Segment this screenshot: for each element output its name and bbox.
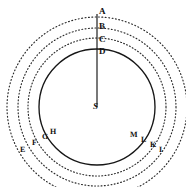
comet-orbit-figure: A B C D S E F G H M L K I [0,0,186,187]
ring-label-h: H [50,128,56,136]
center-label-s: S [93,102,98,111]
axis-label-c: C [99,35,106,44]
ring-label-l: L [141,136,146,144]
ring-label-m: M [130,131,138,139]
axis-label-d: D [99,47,106,56]
ring-label-g: G [42,133,48,141]
ring-label-i: I [159,146,162,154]
figure-canvas [0,0,186,187]
ring-label-f: F [32,139,37,147]
ring-label-e: E [20,146,25,154]
axis-label-b: B [99,22,105,31]
axis-label-a: A [99,7,106,16]
ring-label-k: K [150,141,156,149]
